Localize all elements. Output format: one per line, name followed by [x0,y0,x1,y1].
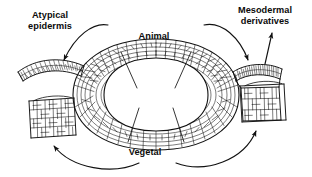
embryo-cut-lines [121,52,191,142]
arrow-vegetal-to-mesodermal-block [176,131,256,167]
label-mesodermal-line1: Mesodermal [222,5,308,16]
label-vegetal-pole: Vegetal [114,147,176,158]
explant-atypical-epidermis [18,59,84,82]
label-animal-pole: Animal [124,31,184,42]
label-atypical-epidermis-line1: Atypical [12,10,88,21]
label-mesodermal-derivatives: Mesodermal derivatives [222,5,308,27]
explant-vegetal-endoderm [29,96,76,138]
arrow-marginal-to-mesodermal-label [265,33,272,64]
arrow-animal-to-marginal-zone [204,24,248,60]
label-atypical-epidermis-line2: epidermis [12,21,88,32]
label-atypical-epidermis: Atypical epidermis [12,10,88,32]
embryo-blastula [73,39,239,150]
embryology-diagram: Atypical epidermis Animal Mesodermal der… [0,0,312,177]
label-mesodermal-line2: derivatives [222,16,308,27]
